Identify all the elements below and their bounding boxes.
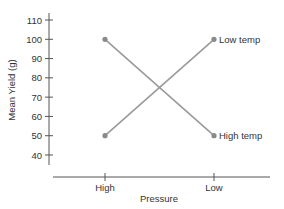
y-tick-label: 40 — [31, 150, 42, 161]
series-label: High temp — [219, 130, 262, 141]
x-axis-title: Pressure — [140, 193, 178, 204]
y-tick-label: 100 — [26, 34, 42, 45]
x-tick-label: High — [95, 182, 115, 193]
y-axis-title: Mean Yield (g) — [6, 59, 17, 120]
data-point-marker — [211, 37, 216, 42]
data-point-marker — [102, 37, 107, 42]
y-tick-label: 80 — [31, 72, 42, 83]
y-tick-label: 90 — [31, 53, 42, 64]
interaction-line-chart: 405060708090100110 HighLow Mean Yield (g… — [0, 0, 284, 209]
data-point-marker — [102, 133, 107, 138]
series-label: Low temp — [219, 34, 260, 45]
y-tick-label: 70 — [31, 92, 42, 103]
y-tick-label: 50 — [31, 130, 42, 141]
y-tick-label: 60 — [31, 111, 42, 122]
y-tick-label: 110 — [27, 15, 42, 26]
series-lines: Low tempHigh temp — [102, 34, 262, 141]
data-point-marker — [211, 133, 216, 138]
x-tick-label: Low — [205, 182, 223, 193]
x-axis-ticks: HighLow — [95, 173, 223, 193]
